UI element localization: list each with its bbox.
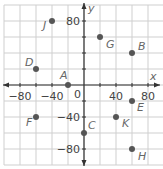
point-f xyxy=(33,114,39,120)
point-label-k: K xyxy=(122,117,130,130)
point-label-a: A xyxy=(59,69,68,82)
origin-label: 0 xyxy=(74,88,81,101)
point-d xyxy=(33,66,39,72)
x-tick-label: −80 xyxy=(8,90,31,103)
point-a xyxy=(65,82,71,88)
point-label-h: H xyxy=(138,150,146,163)
y-axis-label: y xyxy=(87,2,95,15)
y-axis-arrow-up-icon xyxy=(82,3,87,9)
y-tick-label: 80 xyxy=(66,15,80,28)
point-label-c: C xyxy=(88,119,96,132)
point-label-g: G xyxy=(106,38,115,51)
point-label-b: B xyxy=(138,40,146,53)
x-axis-arrow-right-icon xyxy=(154,83,160,88)
y-tick-label: −40 xyxy=(57,111,80,124)
point-label-f: F xyxy=(26,116,33,129)
point-label-d: D xyxy=(25,56,33,69)
x-tick-label: −40 xyxy=(40,90,63,103)
point-k xyxy=(113,114,119,120)
point-j xyxy=(49,18,55,24)
coordinate-plane: xy0−80−40408080−40−80 JGBDAEFKCH xyxy=(0,0,163,169)
point-e xyxy=(129,98,135,104)
axes xyxy=(3,3,160,166)
y-tick-label: −80 xyxy=(57,143,80,156)
point-label-e: E xyxy=(137,101,144,114)
x-tick-label: 40 xyxy=(109,90,123,103)
point-c xyxy=(81,130,87,136)
point-g xyxy=(97,34,103,40)
x-axis-label: x xyxy=(149,70,157,83)
point-b xyxy=(129,50,135,56)
point-h xyxy=(129,146,135,152)
